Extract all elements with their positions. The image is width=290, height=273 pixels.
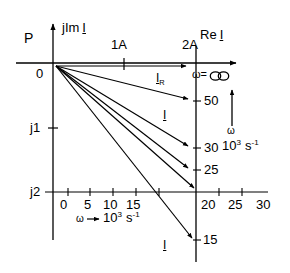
tick-label-real-25: 25 (228, 198, 242, 211)
figure-canvas (0, 0, 290, 273)
tick-label-real-30: 30 (256, 198, 270, 211)
tick-label-imag-j2: j2 (30, 185, 40, 198)
label-omega-infinity: ω= (192, 69, 207, 80)
infinity-icon (210, 72, 228, 80)
tick-label-imag-0: 0 (36, 67, 43, 80)
omega-unit-bottom-exponent: 3 (117, 210, 121, 219)
vector-endpoint-label-25: 25 (204, 163, 218, 176)
axis-label-real: ReI (200, 28, 223, 41)
vector-omega-30 (56, 66, 201, 148)
vector-endpoint-label-30: 30 (204, 141, 218, 154)
axis-label-imaginary: jImI (62, 21, 86, 34)
label-omega-unit-bottom: 103s-1 (103, 211, 140, 224)
tick-label-2A: 2A (182, 38, 198, 51)
tick-label-real-5: 5 (84, 198, 91, 211)
vector-omega-20 (56, 66, 194, 188)
tick-label-1A: 1A (111, 38, 127, 51)
omega-unit-base: 10 (222, 138, 236, 153)
omega-unit-seconds-exponent: -1 (251, 138, 258, 147)
vector-omega-25 (56, 66, 201, 170)
label-omega-unit-right: 103s-1 (222, 139, 259, 152)
label-I-bottom: I (163, 239, 166, 251)
vector-endpoint-label-15: 15 (203, 233, 217, 246)
tick-label-real-0: 0 (60, 198, 67, 211)
axis-label-imaginary-text: jIm (62, 20, 79, 35)
tick-label-imag-j1: j1 (30, 121, 40, 134)
omega-axis (45, 188, 268, 196)
label-omega-direction: ω (227, 126, 235, 136)
vector-endpoint-label-50: 50 (204, 94, 218, 107)
tick-label-real-20: 20 (201, 198, 215, 211)
label-omega-axis: ω (76, 214, 84, 224)
axis-label-real-symbol: I (220, 27, 224, 42)
omega-unit-bottom-base: 10 (103, 210, 117, 225)
current-locus-figure: P jImI ReI 1A 2A 0 j1 j2 IR I I ω= 50 30… (0, 0, 290, 273)
axis-label-imaginary-symbol: I (82, 20, 86, 35)
label-P: P (24, 31, 33, 45)
label-I-middle: I (163, 109, 166, 121)
label-IR-subscript: R (159, 78, 164, 87)
omega-unit-bottom-seconds-exponent: -1 (132, 210, 139, 219)
label-IR: IR (156, 72, 165, 87)
axis-label-real-text: Re (200, 27, 217, 42)
omega-unit-exponent: 3 (236, 138, 240, 147)
